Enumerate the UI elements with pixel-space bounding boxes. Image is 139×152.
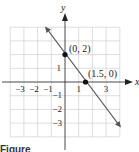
- point-x-intercept-label: (1.5, 0): [88, 68, 117, 80]
- coordinate-plane: y x (0, 2) (1.5, 0) −3 −2 −1 1 3 1 −1 −2…: [0, 0, 139, 152]
- x-tick-label: 1: [76, 84, 81, 94]
- y-tick-label: −3: [52, 118, 62, 128]
- y-axis-arrow-icon: [62, 13, 68, 21]
- y-tick-label: −2: [52, 104, 62, 114]
- x-tick-label: −1: [43, 84, 53, 94]
- y-tick-label: −1: [52, 90, 62, 100]
- y-tick-label: 1: [57, 63, 62, 73]
- point-x-intercept: [83, 79, 88, 84]
- y-axis: [62, 13, 68, 150]
- point-y-intercept: [62, 52, 67, 57]
- x-tick-label: 3: [104, 84, 109, 94]
- y-axis-label: y: [60, 2, 66, 13]
- x-axis-label: x: [134, 76, 139, 87]
- x-axis-arrow-icon: [125, 79, 133, 85]
- point-y-intercept-label: (0, 2): [69, 43, 91, 55]
- figure-caption: Figure: [0, 145, 139, 152]
- x-tick-label: −3: [15, 84, 25, 94]
- x-tick-label: −2: [29, 84, 39, 94]
